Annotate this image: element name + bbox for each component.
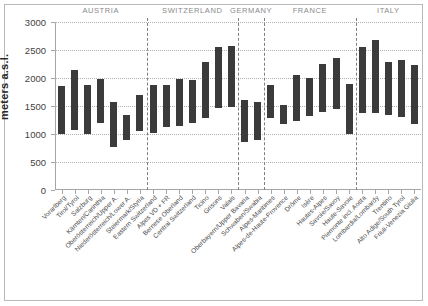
country-separator: [356, 18, 357, 190]
y-tick-mark: [51, 134, 55, 135]
country-group-label: GERMANY: [230, 6, 272, 15]
bar: [176, 79, 183, 125]
chart-figure: meters a.s.l. 050010001500200025003000 A…: [0, 0, 428, 306]
bar: [136, 95, 143, 131]
bar: [202, 62, 209, 118]
bar: [189, 80, 196, 124]
y-tick-mark: [51, 78, 55, 79]
bar: [346, 84, 353, 134]
bar: [254, 102, 261, 140]
country-group-label: AUSTRIA: [82, 6, 119, 15]
bar: [319, 64, 326, 112]
country-group-label: FRANCE: [293, 6, 327, 15]
bar: [241, 100, 248, 141]
y-axis: meters a.s.l. 050010001500200025003000: [0, 0, 52, 306]
bar: [359, 47, 366, 114]
y-tick-mark: [51, 106, 55, 107]
y-tick-label: 1000: [25, 129, 46, 140]
y-axis-title: meters a.s.l.: [0, 54, 10, 120]
bar: [97, 79, 104, 124]
y-tick-label: 1500: [25, 101, 46, 112]
bar: [333, 58, 340, 109]
plot-area: AUSTRIASWITZERLANDGERMANYFRANCEITALY: [55, 22, 421, 190]
country-group-label: SWITZERLAND: [162, 6, 222, 15]
country-group-label: ITALY: [377, 6, 400, 15]
country-separator: [264, 18, 265, 190]
country-separator: [238, 18, 239, 190]
bar: [215, 47, 222, 107]
y-tick-label: 2000: [25, 73, 46, 84]
bar: [58, 86, 65, 134]
bar: [306, 78, 313, 116]
country-separator: [147, 18, 148, 190]
y-tick-mark: [51, 162, 55, 163]
bar: [293, 75, 300, 121]
bar: [150, 85, 157, 133]
y-tick-label: 500: [30, 157, 46, 168]
y-tick-label: 0: [41, 185, 46, 196]
bar: [280, 105, 287, 124]
bar: [385, 62, 392, 115]
bar: [228, 46, 235, 108]
bar: [123, 115, 130, 140]
bar: [84, 85, 91, 134]
y-tick-label: 2500: [25, 45, 46, 56]
y-tick-label: 3000: [25, 17, 46, 28]
bar: [110, 102, 117, 147]
bar: [411, 65, 418, 124]
x-axis-labels: VorarlbergTirol/TyrolSalzburgKärnten/Car…: [55, 190, 421, 302]
y-tick-mark: [51, 50, 55, 51]
bar: [398, 60, 405, 117]
y-tick-mark: [51, 22, 55, 23]
bar: [163, 85, 170, 128]
bar: [372, 40, 379, 113]
bar: [267, 85, 274, 119]
bar: [71, 70, 78, 130]
